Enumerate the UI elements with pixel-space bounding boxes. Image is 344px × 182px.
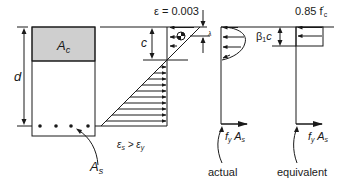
actual-force-label: fy As xyxy=(225,130,246,144)
actual-caption: actual xyxy=(208,166,237,178)
equivalent-leader xyxy=(294,128,297,163)
centroid-icon xyxy=(177,32,185,40)
parabolic-stress xyxy=(221,27,245,60)
steel-area-label: As xyxy=(89,159,104,176)
strain-diagram xyxy=(95,10,210,126)
lambda-label: λ xyxy=(207,30,212,37)
diagram-canvas: Ac d As ε xyxy=(0,0,344,182)
strain-line xyxy=(101,27,200,126)
top-strain-label: ε = 0.003 xyxy=(154,5,199,17)
actual-leader xyxy=(218,128,222,163)
depth-label: d xyxy=(14,69,22,84)
beam-stress-diagram: Ac d As ε xyxy=(0,0,344,182)
steel-strain-label: εs > εy xyxy=(117,139,145,152)
equivalent-force-label: fy As xyxy=(308,130,329,144)
steel-bars xyxy=(38,124,90,128)
equivalent-caption: equivalent xyxy=(277,166,327,178)
beta1c-label: β1c xyxy=(256,30,272,43)
neutral-axis-depth-label: c xyxy=(141,36,147,50)
equivalent-stress-diagram xyxy=(262,27,334,163)
actual-stress-diagram xyxy=(218,27,262,163)
stress-block-label: 0.85 f′c xyxy=(295,5,328,18)
